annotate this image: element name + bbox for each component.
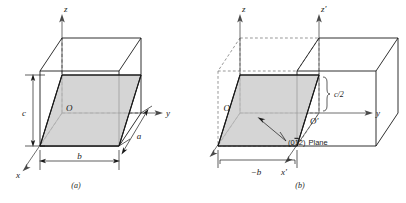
panel-b-z-prime-axis: z' (316, 4, 327, 113)
figure-container: z y x (0, 0, 406, 203)
panel-a-dimension-c: c (22, 74, 45, 147)
panel-a-y-axis-label: y (165, 108, 170, 118)
plane-miller-suffix: 2) (299, 138, 306, 147)
panel-a-caption: (a) (71, 181, 81, 190)
panel-a-z-axis-label: z (63, 4, 68, 14)
figure-svg: z y x (0, 0, 406, 203)
panel-a: z y x (15, 4, 170, 190)
panel-b-dimension-negative-b-label: −b (251, 167, 262, 177)
plane-annotation-text: Plane (309, 138, 328, 147)
panel-b-plane-annotation: (012)Plane (288, 138, 328, 147)
panel-b-origin-prime-label: O' (310, 116, 319, 126)
panel-b-z-prime-axis-label: z' (320, 4, 328, 14)
panel-a-dimension-b: b (39, 150, 120, 170)
panel-b-z-axis-label: z (241, 4, 246, 14)
plane-miller-prefix: (0 (288, 138, 295, 147)
panel-a-dimension-a-label: a (137, 131, 142, 141)
svg-text:(012)Plane: (012)Plane (288, 138, 328, 147)
panel-a-origin-label: O (66, 103, 73, 113)
panel-b-dimension-c-half: c/2 (323, 77, 344, 111)
panel-b-origin-label: O (224, 103, 231, 113)
panel-a-x-axis-label: x (15, 170, 20, 180)
panel-b-caption: (b) (295, 181, 305, 190)
panel-b-dimension-c-half-label: c/2 (334, 90, 344, 99)
panel-a-dimension-b-label: b (77, 151, 82, 161)
panel-b-x-prime-axis-label: x' (280, 167, 288, 177)
panel-a-dimension-c-label: c (22, 108, 26, 118)
panel-b: z z' y x' (210, 4, 399, 190)
